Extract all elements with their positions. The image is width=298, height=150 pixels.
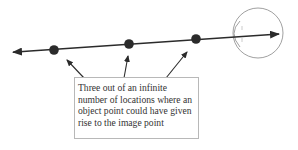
object-points [49, 34, 201, 55]
pointer-arrows [67, 52, 187, 78]
annotation-text: Three out of an infinite number of locat… [78, 82, 195, 128]
eye-icon [233, 8, 283, 58]
annotation-box: Three out of an infinite number of locat… [74, 77, 199, 139]
diagram-canvas: Three out of an infinite number of locat… [0, 0, 298, 150]
